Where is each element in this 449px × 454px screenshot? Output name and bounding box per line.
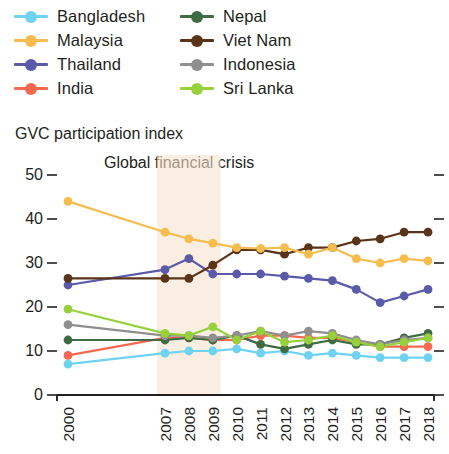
- data-point-malaysia: [304, 250, 313, 259]
- data-point-sri-lanka: [64, 305, 73, 314]
- data-point-thailand: [256, 270, 265, 279]
- legend-item-viet-nam[interactable]: Viet Nam: [180, 28, 295, 52]
- legend-item-label: Sri Lanka: [223, 79, 294, 98]
- data-point-sri-lanka: [232, 336, 241, 345]
- legend-marker-icon: [180, 57, 214, 71]
- data-point-malaysia: [185, 234, 194, 243]
- data-point-thailand: [185, 254, 194, 263]
- data-point-india: [424, 342, 433, 351]
- data-point-malaysia: [232, 243, 241, 252]
- data-point-malaysia: [352, 254, 361, 263]
- data-point-bangladesh: [424, 353, 433, 362]
- data-point-viet-nam: [400, 228, 409, 237]
- chart-page: BangladeshMalaysiaThailandIndia NepalVie…: [0, 0, 449, 454]
- data-point-sri-lanka: [256, 327, 265, 336]
- data-point-bangladesh: [352, 351, 361, 360]
- data-point-bangladesh: [304, 351, 313, 360]
- x-tick-label: 2015: [348, 407, 365, 441]
- data-point-indonesia: [304, 327, 313, 336]
- data-point-nepal: [64, 336, 73, 345]
- data-point-viet-nam: [161, 274, 170, 283]
- data-point-malaysia: [424, 256, 433, 265]
- y-tick-label: 30: [25, 254, 43, 271]
- data-point-bangladesh: [256, 349, 265, 358]
- data-point-bangladesh: [400, 353, 409, 362]
- data-point-sri-lanka: [400, 338, 409, 347]
- data-point-malaysia: [256, 244, 265, 253]
- legend-item-label: Nepal: [223, 7, 267, 26]
- data-point-thailand: [232, 270, 241, 279]
- data-point-bangladesh: [208, 347, 217, 356]
- legend-item-label: Malaysia: [57, 31, 123, 50]
- chart-legend: BangladeshMalaysiaThailandIndia NepalVie…: [0, 0, 449, 112]
- data-point-thailand: [280, 272, 289, 281]
- x-tick-label: 2014: [324, 407, 341, 442]
- data-point-sri-lanka: [424, 333, 433, 342]
- x-tick-label: 2013: [300, 407, 317, 441]
- data-point-thailand: [376, 298, 385, 307]
- x-tick-label: 2017: [396, 407, 413, 441]
- legend-item-label: Viet Nam: [223, 31, 291, 50]
- y-tick-label: 10: [25, 342, 43, 359]
- chart-area: GVC participation index Global financial…: [0, 112, 449, 454]
- x-tick-label: 2007: [157, 407, 174, 441]
- legend-marker-icon: [14, 81, 48, 95]
- x-tick-label: 2016: [372, 407, 389, 441]
- data-point-sri-lanka: [185, 331, 194, 340]
- data-point-thailand: [400, 292, 409, 301]
- data-point-sri-lanka: [352, 338, 361, 347]
- x-tick-label: 2009: [205, 407, 222, 441]
- series-line-bangladesh: [68, 349, 428, 364]
- x-tick-label: 2008: [181, 407, 198, 441]
- data-point-sri-lanka: [208, 322, 217, 331]
- data-point-malaysia: [328, 243, 337, 252]
- legend-item-indonesia[interactable]: Indonesia: [180, 52, 295, 76]
- data-point-bangladesh: [161, 349, 170, 358]
- data-point-sri-lanka: [280, 338, 289, 347]
- data-point-indonesia: [208, 333, 217, 342]
- chart-svg: 0102030405020002007200820092010201120122…: [0, 112, 449, 454]
- series-line-indonesia: [68, 325, 428, 345]
- legend-marker-icon: [180, 9, 214, 23]
- data-point-india: [64, 351, 73, 360]
- data-point-bangladesh: [185, 347, 194, 356]
- legend-item-thailand[interactable]: Thailand: [14, 52, 145, 76]
- legend-item-sri-lanka[interactable]: Sri Lanka: [180, 76, 295, 100]
- data-point-viet-nam: [185, 274, 194, 283]
- legend-marker-icon: [14, 57, 48, 71]
- data-point-viet-nam: [208, 261, 217, 270]
- legend-marker-icon: [14, 9, 48, 23]
- legend-item-bangladesh[interactable]: Bangladesh: [14, 4, 145, 28]
- data-point-thailand: [328, 276, 337, 285]
- x-tick-label: 2011: [253, 407, 270, 440]
- data-point-viet-nam: [64, 274, 73, 283]
- legend-item-nepal[interactable]: Nepal: [180, 4, 295, 28]
- data-point-sri-lanka: [304, 336, 313, 345]
- data-point-bangladesh: [376, 353, 385, 362]
- legend-item-label: India: [57, 79, 93, 98]
- legend-marker-icon: [180, 33, 214, 47]
- data-point-nepal: [256, 340, 265, 349]
- y-tick-label: 40: [25, 210, 43, 227]
- series-line-malaysia: [68, 201, 428, 263]
- data-point-sri-lanka: [328, 331, 337, 340]
- legend-item-label: Bangladesh: [57, 7, 145, 26]
- data-point-bangladesh: [232, 344, 241, 353]
- legend-item-malaysia[interactable]: Malaysia: [14, 28, 145, 52]
- data-point-thailand: [208, 270, 217, 279]
- legend-column-1: BangladeshMalaysiaThailandIndia: [14, 4, 145, 100]
- data-point-bangladesh: [328, 349, 337, 358]
- data-point-indonesia: [64, 320, 73, 329]
- data-point-viet-nam: [352, 237, 361, 246]
- legend-item-label: Indonesia: [223, 55, 295, 74]
- legend-item-india[interactable]: India: [14, 76, 145, 100]
- data-point-thailand: [424, 285, 433, 294]
- data-point-thailand: [352, 285, 361, 294]
- data-point-thailand: [304, 274, 313, 283]
- data-point-sri-lanka: [376, 342, 385, 351]
- y-tick-label: 20: [25, 298, 43, 315]
- x-tick-label: 2010: [229, 407, 246, 442]
- data-point-bangladesh: [64, 360, 73, 369]
- x-tick-label: 2018: [420, 407, 437, 441]
- data-point-malaysia: [376, 259, 385, 268]
